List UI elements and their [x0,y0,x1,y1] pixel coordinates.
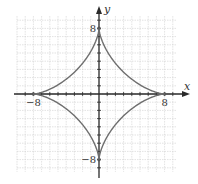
x-axis-label: x [184,80,191,93]
y-axis-label: y [103,3,111,16]
y-tick-label: −8 [81,154,96,165]
x-tick-label: 8 [161,97,167,108]
y-tick-label: 8 [90,23,96,34]
astroid-chart: −888−8 x y [0,0,198,184]
x-tick-label: −8 [26,97,41,108]
y-axis-arrow-icon [96,6,102,14]
